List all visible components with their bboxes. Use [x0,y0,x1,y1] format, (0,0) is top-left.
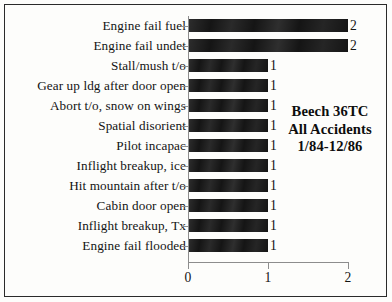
y-axis-tick [181,66,188,67]
category-label: Pilot incapac [116,136,186,156]
bar-chart-plot: Engine fail fuel 2 Engine fail undet 2 S… [0,0,392,302]
bar [189,119,268,132]
category-label: Stall/mush t/o [111,56,186,76]
category-label: Engine fail flooded [82,236,186,256]
x-axis-tick-label: 2 [333,270,363,286]
category-label: Gear up ldg after door open [37,76,186,96]
chart-page: Engine fail fuel 2 Engine fail undet 2 S… [0,0,392,302]
bar [189,19,348,32]
y-axis-tick [181,46,188,47]
chart-row: Inflight breakup, ice 1 [0,156,392,176]
x-axis-tick-label: 1 [253,270,283,286]
y-axis-tick [181,106,188,107]
x-axis-tick [268,262,269,269]
bar-value-label: 1 [268,156,277,176]
y-axis-tick [181,86,188,87]
chart-row: Inflight breakup, Tx 1 [0,216,392,236]
x-axis-tick [348,262,349,269]
bar-value-label: 2 [348,16,357,36]
bar-value-label: 1 [268,196,277,216]
bar [189,39,348,52]
chart-row: Gear up ldg after door open 1 [0,76,392,96]
chart-row: Cabin door open 1 [0,196,392,216]
x-axis-tick-label: 0 [173,270,203,286]
category-label: Inflight breakup, ice [77,156,186,176]
chart-row: Stall/mush t/o 1 [0,56,392,76]
category-label: Spatial disorient [98,116,186,136]
bar [189,199,268,212]
category-label: Engine fail fuel [102,16,186,36]
bar [189,179,268,192]
bar [189,59,268,72]
y-axis-tick [181,126,188,127]
bar-value-label: 1 [268,236,277,256]
chart-annotation: Beech 36TC All Accidents 1/84-12/86 [271,103,389,156]
y-axis-line [188,16,189,262]
y-axis-tick [181,226,188,227]
x-axis-tick [188,262,189,269]
bar [189,99,268,112]
bar [189,139,268,152]
chart-row: Engine fail fuel 2 [0,16,392,36]
bar-value-label: 1 [268,176,277,196]
y-axis-tick [181,26,188,27]
category-label: Inflight breakup, Tx [78,216,186,236]
chart-row: Engine fail flooded 1 [0,236,392,256]
y-axis-tick [181,206,188,207]
bar [189,79,268,92]
y-axis-tick [181,186,188,187]
annotation-line-title: Beech 36TC [271,103,389,121]
bar [189,159,268,172]
bar [189,239,268,252]
y-axis-tick [181,146,188,147]
bar [189,219,268,232]
bar-value-label: 2 [348,36,357,56]
category-label: Hit mountain after t/o [69,176,186,196]
category-label: Abort t/o, snow on wings [50,96,186,116]
y-axis-tick [181,246,188,247]
bar-value-label: 1 [268,76,277,96]
chart-row: Engine fail undet 2 [0,36,392,56]
annotation-line-daterange: 1/84-12/86 [271,138,389,156]
category-label: Cabin door open [97,196,186,216]
annotation-line-subtitle: All Accidents [271,121,389,139]
chart-row: Hit mountain after t/o 1 [0,176,392,196]
bar-value-label: 1 [268,216,277,236]
bar-value-label: 1 [268,56,277,76]
category-label: Engine fail undet [93,36,186,56]
y-axis-tick [181,166,188,167]
